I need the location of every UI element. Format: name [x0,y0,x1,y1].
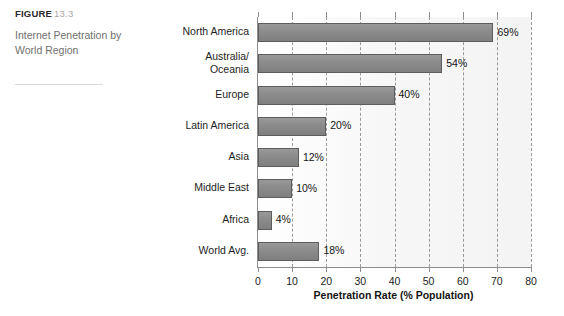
x-axis-title: Penetration Rate (% Population) [257,289,530,301]
bar-value-label: 12% [303,151,324,163]
x-axis-tick [497,267,498,272]
bar [258,86,395,105]
x-axis-tick-top [258,12,259,17]
bar [258,54,442,73]
bar [258,179,292,198]
x-axis-tick-top [463,12,464,17]
bar [258,117,326,136]
bar-chart: 0102030405060708069%54%40%20%12%10%4%18%… [0,0,564,316]
category-label: North America [149,25,249,38]
category-label: Latin America [149,119,249,132]
gridline [463,17,464,267]
bar-value-label: 20% [330,119,351,131]
bar-value-label: 4% [276,213,291,225]
x-axis-tick-top [292,12,293,17]
category-label: World Avg. [149,244,249,257]
bar [258,242,319,261]
x-axis-tick-top [326,12,327,17]
x-axis-tick-label: 50 [423,275,435,287]
x-axis-tick [429,267,430,272]
x-axis-tick [395,267,396,272]
category-label: Middle East [149,181,249,194]
x-axis-tick [326,267,327,272]
x-axis-tick-label: 10 [286,275,298,287]
x-axis-tick-top [360,12,361,17]
x-axis-tick-label: 0 [255,275,261,287]
x-axis-tick-label: 60 [457,275,469,287]
bar-value-label: 54% [446,57,467,69]
x-axis-tick [531,267,532,272]
x-axis-tick-label: 70 [491,275,503,287]
x-axis-tick [292,267,293,272]
gridline [497,17,498,267]
x-axis-tick-label: 40 [389,275,401,287]
x-axis-tick-top [531,12,532,17]
bar [258,211,272,230]
x-axis-tick-label: 20 [320,275,332,287]
category-label: Europe [149,88,249,101]
plot-area: 0102030405060708069%54%40%20%12%10%4%18% [257,17,531,268]
category-label: Asia [149,150,249,163]
bar [258,23,493,42]
x-axis-tick-label: 80 [525,275,537,287]
bar-value-label: 18% [323,244,344,256]
x-axis-tick [258,267,259,272]
bar-value-label: 69% [497,26,518,38]
bar [258,148,299,167]
x-axis-tick [463,267,464,272]
gridline [531,17,532,267]
x-axis-tick-top [429,12,430,17]
category-label: Africa [149,213,249,226]
bar-value-label: 40% [399,88,420,100]
bar-value-label: 10% [296,182,317,194]
x-axis-tick-top [395,12,396,17]
x-axis-tick-top [497,12,498,17]
category-label: Australia/Oceania [149,50,249,76]
x-axis-tick-label: 30 [355,275,367,287]
x-axis-tick [360,267,361,272]
